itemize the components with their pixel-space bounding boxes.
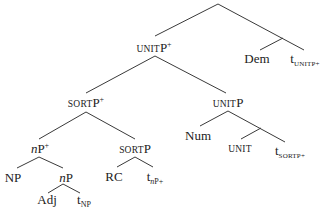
trace-subscript: NP	[81, 200, 91, 207]
node-num: Num	[185, 129, 211, 142]
trace-subscript: UNITP+	[294, 60, 320, 68]
node-label-base: UNIT	[213, 99, 237, 109]
node-unitp: UNITP	[213, 96, 244, 110]
node-t-np-plus: tnP+	[147, 170, 164, 186]
node-t-unitp-plus: tUNITP+	[290, 52, 319, 68]
edge-root-unitp-plus	[155, 4, 218, 36]
node-label-head: P	[160, 40, 167, 55]
edge-unitp-num	[200, 111, 228, 126]
node-unit: UNIT	[228, 145, 252, 155]
node-label-head: P	[236, 95, 243, 110]
node-label: RC	[105, 169, 122, 184]
edge-root-right	[218, 4, 304, 50]
trace-subscript: SORTP+	[279, 152, 306, 160]
node-label-head: P	[66, 170, 73, 185]
node-label-base: SORT	[119, 145, 144, 155]
node-dem: Dem	[244, 52, 269, 65]
node-label-sup: +	[167, 40, 172, 49]
node-sortp: SORTP	[119, 142, 151, 156]
edge-unitp-plus-sortp-plus	[86, 56, 155, 93]
edge-np-plus-NP	[17, 157, 39, 168]
node-label-base: UNIT	[136, 44, 160, 54]
node-label-sup: +	[100, 95, 105, 104]
node-np-plus: nP+	[31, 142, 49, 155]
node-rc: RC	[105, 170, 122, 183]
edge-sortp-t-np-plus	[135, 157, 153, 167]
edge-np-plus-np	[39, 157, 63, 168]
node-label: Num	[185, 128, 211, 143]
node-label-head: P	[144, 141, 151, 156]
node-label: UNIT	[228, 144, 252, 154]
edge-sortp-rc	[117, 157, 135, 167]
node-label-head: P	[92, 95, 99, 110]
node-label: Dem	[244, 51, 269, 66]
edge-sortp-plus-np-plus	[39, 112, 86, 139]
edge-unitp-plus-unitp	[155, 56, 226, 93]
edge-unitp-right	[228, 111, 285, 142]
node-label: NP	[5, 170, 22, 185]
edge-sortp-plus-sortp	[86, 112, 135, 139]
node-NP: NP	[5, 171, 22, 184]
node-t-NP: tNP	[77, 193, 91, 207]
node-adj: Adj	[37, 193, 57, 206]
node-unitp-plus: UNITP+	[136, 41, 171, 55]
node-label-base: SORT	[68, 99, 93, 109]
edge-right-dem	[260, 38, 283, 50]
trace-subscript: P+	[154, 177, 163, 186]
node-np: nP	[59, 171, 73, 184]
node-sortp-plus: SORTP+	[68, 96, 104, 110]
node-t-sortp-plus: tSORTP+	[275, 144, 305, 160]
edge-unitp-right-unit	[241, 128, 261, 139]
node-label: Adj	[37, 192, 57, 207]
node-label-head: P	[37, 141, 44, 156]
node-label-sup: +	[45, 141, 50, 150]
